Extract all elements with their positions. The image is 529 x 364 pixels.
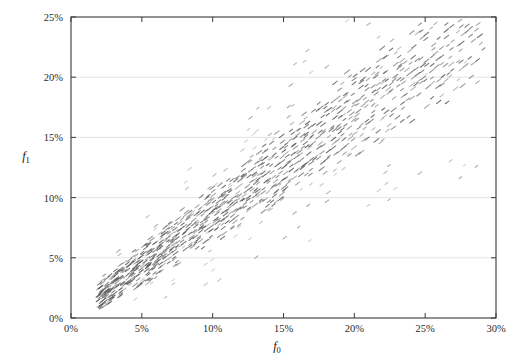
scatter-marker [372, 72, 375, 74]
scatter-marker [337, 150, 342, 154]
scatter-marker [150, 282, 153, 284]
scatter-marker [311, 109, 315, 112]
scatter-marker [183, 246, 185, 248]
scatter-marker [249, 169, 252, 172]
scatter-marker [198, 239, 202, 242]
scatter-marker [321, 144, 325, 147]
scatter-marker [192, 211, 195, 213]
scatter-marker [327, 191, 331, 194]
scatter-marker [431, 55, 434, 58]
scatter-marker [415, 73, 420, 77]
scatter-marker [355, 113, 360, 117]
scatter-marker [304, 124, 309, 128]
scatter-marker [180, 240, 183, 243]
scatter-marker [446, 44, 449, 46]
scatter-marker [344, 70, 349, 74]
scatter-marker [321, 115, 325, 118]
scatter-marker [224, 168, 227, 171]
scatter-marker [243, 203, 246, 206]
scatter-marker [375, 105, 378, 107]
scatter-marker [188, 167, 192, 170]
scatter-marker [250, 200, 253, 202]
scatter-marker [461, 33, 464, 35]
scatter-marker [302, 112, 306, 115]
scatter-marker [227, 179, 230, 182]
scatter-marker [382, 108, 385, 110]
scatter-marker [289, 159, 293, 162]
scatter-marker [268, 133, 271, 135]
scatter-marker [387, 124, 391, 127]
scatter-marker [103, 274, 106, 276]
scatter-marker [476, 59, 480, 62]
scatter-marker [180, 208, 184, 211]
scatter-marker [316, 156, 320, 159]
scatter-marker [310, 183, 312, 185]
scatter-marker [179, 244, 183, 247]
scatter-marker [381, 95, 385, 98]
scatter-marker [201, 210, 205, 213]
scatter-marker [417, 79, 421, 82]
scatter-marker [216, 200, 221, 204]
scatter-marker [275, 131, 279, 134]
scatter-marker [218, 224, 221, 226]
scatter-marker [257, 107, 259, 109]
scatter-marker [229, 212, 232, 214]
scatter-marker [424, 32, 428, 35]
scatter-marker [459, 41, 464, 45]
scatter-marker [482, 48, 485, 50]
scatter-marker [390, 39, 393, 42]
scatter-marker [184, 224, 187, 226]
scatter-marker [292, 176, 296, 179]
scatter-marker [312, 123, 315, 126]
scatter-marker [459, 177, 461, 179]
scatter-marker [160, 237, 163, 239]
scatter-marker [389, 82, 393, 85]
scatter-marker [394, 187, 397, 189]
scatter-marker [327, 108, 331, 111]
scatter-marker [268, 107, 271, 109]
scatter-marker [195, 205, 199, 208]
scatter-marker [338, 88, 342, 91]
scatter-marker [265, 156, 268, 158]
scatter-marker [257, 151, 262, 155]
scatter-marker [444, 29, 449, 33]
scatter-marker [172, 283, 175, 285]
scatter-marker [285, 143, 288, 146]
scatter-marker [463, 63, 468, 67]
scatter-marker [380, 66, 383, 68]
scatter-marker [351, 138, 354, 141]
scatter-marker [425, 105, 430, 109]
scatter-marker [437, 79, 441, 82]
scatter-marker [142, 266, 145, 268]
scatter-marker [430, 27, 433, 29]
scatter-marker [459, 25, 463, 28]
scatter-marker [252, 133, 255, 135]
scatter-marker [341, 82, 344, 84]
scatter-marker [430, 69, 435, 73]
scatter-marker [398, 55, 401, 58]
scatter-marker [172, 279, 175, 281]
scatter-marker [384, 171, 387, 173]
scatter-marker [432, 48, 435, 51]
scatter-marker [250, 155, 253, 157]
scatter-marker [270, 171, 274, 174]
scatter-marker [289, 139, 292, 142]
scatter-marker [154, 228, 157, 230]
scatter-marker [301, 138, 305, 141]
scatter-marker [312, 141, 315, 144]
scatter-marker [333, 81, 338, 85]
scatter-marker [333, 116, 338, 120]
scatter-marker [293, 211, 297, 214]
scatter-marker [395, 52, 397, 54]
scatter-marker [347, 110, 351, 113]
scatter-marker [402, 107, 405, 109]
scatter-marker [126, 262, 130, 265]
scatter-marker [276, 175, 279, 177]
y-tick-label: 10% [44, 193, 64, 204]
scatter-marker [326, 113, 329, 115]
scatter-marker [367, 204, 370, 206]
scatter-marker [357, 127, 360, 129]
scatter-marker [426, 85, 431, 89]
scatter-marker [400, 88, 403, 90]
scatter-marker [447, 73, 450, 75]
